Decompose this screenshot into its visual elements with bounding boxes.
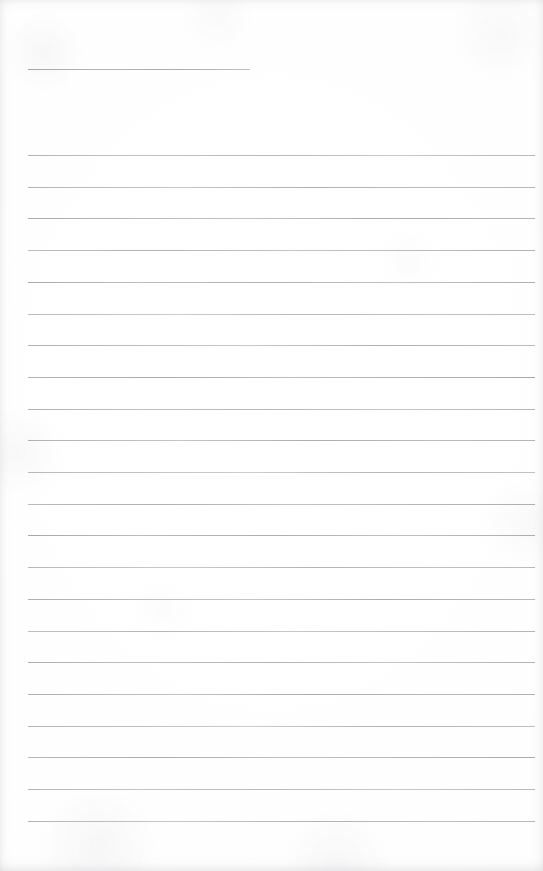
ruled-line xyxy=(28,472,535,473)
ruled-line xyxy=(28,314,535,315)
ruled-line xyxy=(28,631,535,632)
ruled-line xyxy=(28,757,535,758)
paper-background xyxy=(0,0,543,871)
ruled-line xyxy=(28,440,535,441)
ruled-line xyxy=(28,155,535,156)
ruled-line xyxy=(28,187,535,188)
ruled-line xyxy=(28,282,535,283)
ruled-line xyxy=(28,377,535,378)
ruled-line xyxy=(28,409,535,410)
ruled-line xyxy=(28,218,535,219)
ruled-line xyxy=(28,821,535,822)
ruled-line xyxy=(28,345,535,346)
header-title-rule xyxy=(28,69,250,70)
document-page xyxy=(0,0,543,871)
ruled-line xyxy=(28,662,535,663)
ruled-line xyxy=(28,694,535,695)
ruled-line xyxy=(28,789,535,790)
ruled-line xyxy=(28,567,535,568)
ruled-line xyxy=(28,250,535,251)
ruled-line xyxy=(28,726,535,727)
ruled-line xyxy=(28,599,535,600)
ruled-line xyxy=(28,535,535,536)
ruled-line xyxy=(28,504,535,505)
